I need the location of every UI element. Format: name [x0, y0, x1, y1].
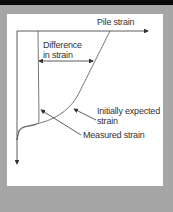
measured-label: Measured strain — [83, 130, 145, 140]
expected-pointer — [74, 109, 96, 120]
expected-label-2: strain — [97, 116, 118, 126]
expected-label-1: Initially expected — [97, 106, 160, 116]
measured-strain-curve — [17, 31, 39, 140]
difference-label-1: Difference — [43, 40, 82, 50]
difference-label-2: in strain — [43, 50, 73, 60]
x-axis-label: Pile strain — [97, 17, 134, 27]
